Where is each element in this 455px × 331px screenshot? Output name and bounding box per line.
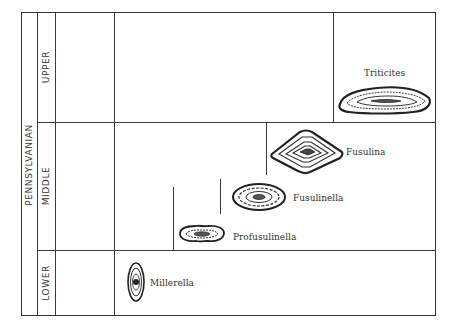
period-column-divider — [37, 12, 38, 316]
fossil-label-triticites: Triticites — [364, 68, 405, 78]
epoch-label-upper: UPPER — [41, 51, 51, 83]
middle-lower-boundary — [37, 250, 436, 251]
epoch-column-divider — [55, 12, 56, 316]
fusulinella-fossil-icon — [231, 182, 287, 212]
period-label: PENNSYLVANIAN — [24, 124, 34, 206]
profusulinella-fossil-icon — [178, 223, 226, 244]
fossil-label-fusulina: Fusulina — [346, 147, 385, 157]
fossil-label-fusulinella: Fusulinella — [293, 193, 343, 203]
range-column-divider — [114, 12, 115, 316]
fossil-label-millerella: Millerella — [150, 278, 194, 288]
profusulinella-range-line — [173, 187, 174, 250]
fusulina-fossil-icon — [270, 130, 344, 174]
epoch-label-middle: MIDDLE — [41, 167, 51, 206]
triticites-range-line — [333, 12, 334, 122]
fusulinella-range-line — [220, 179, 221, 214]
upper-middle-boundary — [37, 122, 436, 123]
epoch-label-lower: LOWER — [41, 265, 51, 301]
fusulina-range-line — [266, 122, 267, 175]
chart-frame — [21, 12, 436, 316]
fossil-label-profusulinella: Profusulinella — [233, 232, 296, 242]
triticites-fossil-icon — [337, 84, 433, 116]
millerella-fossil-icon — [127, 262, 145, 302]
